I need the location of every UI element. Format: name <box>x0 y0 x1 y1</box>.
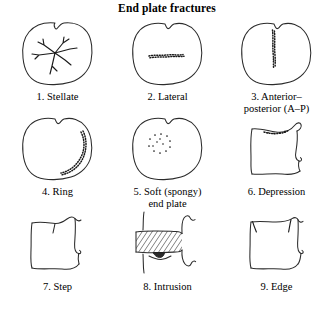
figure-title: End plate fractures <box>0 2 334 14</box>
figure-panel-intrusion: 8. Intrusion <box>112 210 223 293</box>
figure-panel-lateral: 2. Lateral <box>112 20 223 103</box>
figure-panel-ring: 4. Ring <box>2 115 113 198</box>
figure-grid: 1. Stellate 2. Lateral 3. <box>0 20 334 313</box>
illustration-anterior-posterior <box>221 20 332 88</box>
illustration-ring <box>2 115 113 183</box>
illustration-depression <box>221 115 332 183</box>
figure-caption-soft-spongy-end-plate: 5. Soft (spongy) end plate <box>112 186 223 209</box>
illustration-step <box>2 210 113 278</box>
illustration-lateral <box>112 20 223 88</box>
figure-panel-stellate: 1. Stellate <box>2 20 113 103</box>
figure-root: End plate fractures 1. Stellate <box>0 0 334 313</box>
illustration-edge <box>221 210 332 278</box>
figure-caption-step: 7. Step <box>2 281 113 293</box>
figure-panel-soft-spongy-end-plate: 5. Soft (spongy) end plate <box>112 115 223 209</box>
figure-caption-ring: 4. Ring <box>2 186 113 198</box>
figure-caption-intrusion: 8. Intrusion <box>112 281 223 293</box>
figure-caption-edge: 9. Edge <box>221 281 332 293</box>
figure-panel-depression: 6. Depression <box>221 115 332 198</box>
figure-caption-lateral: 2. Lateral <box>112 91 223 103</box>
figure-panel-edge: 9. Edge <box>221 210 332 293</box>
illustration-soft-spongy-end-plate <box>112 115 223 183</box>
figure-caption-stellate: 1. Stellate <box>2 91 113 103</box>
figure-caption-anterior-posterior: 3. Anterior– posterior (A–P) <box>221 91 332 114</box>
illustration-stellate <box>2 20 113 88</box>
figure-panel-anterior-posterior: 3. Anterior– posterior (A–P) <box>221 20 332 114</box>
figure-caption-depression: 6. Depression <box>221 186 332 198</box>
illustration-intrusion <box>112 210 223 278</box>
figure-panel-step: 7. Step <box>2 210 113 293</box>
